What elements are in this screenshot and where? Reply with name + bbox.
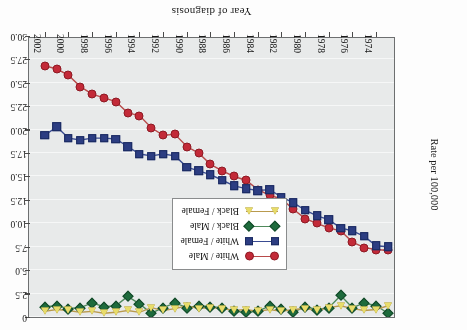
data-point	[289, 306, 297, 313]
data-point	[242, 306, 250, 313]
legend-marker	[269, 221, 281, 233]
y-tick-label: 27.5	[10, 55, 27, 65]
x-tick-mark	[210, 32, 211, 37]
data-point	[147, 304, 155, 311]
data-point	[360, 232, 368, 240]
data-point	[265, 185, 273, 193]
legend-marker	[270, 252, 279, 261]
data-point	[324, 224, 333, 233]
legend-swatch	[244, 236, 280, 248]
data-point	[207, 304, 215, 311]
data-point	[135, 111, 144, 120]
data-point	[123, 142, 131, 150]
legend-marker	[245, 208, 253, 215]
data-point	[171, 130, 180, 139]
data-point	[289, 199, 297, 207]
y-tick-label: 25.0	[10, 79, 27, 89]
legend-label: Black / Female	[181, 207, 239, 217]
data-point	[242, 184, 250, 192]
data-point	[360, 307, 368, 314]
x-tick-label: 1976	[340, 34, 350, 53]
legend-swatch	[244, 251, 280, 263]
y-tick-label: 10.0	[10, 219, 27, 229]
data-point	[100, 310, 108, 317]
data-point	[112, 135, 120, 143]
data-point	[230, 182, 238, 190]
data-point	[384, 302, 392, 309]
data-point	[64, 134, 72, 142]
data-point	[194, 149, 203, 158]
y-tick-label: 20.0	[10, 126, 27, 136]
data-point	[372, 306, 380, 313]
data-point	[183, 163, 191, 171]
data-point	[182, 142, 191, 151]
data-point	[230, 172, 239, 181]
data-point	[147, 152, 155, 160]
data-point	[76, 136, 84, 144]
x-tick-label: 1992	[150, 34, 160, 53]
x-tick-label: 1984	[245, 34, 255, 53]
legend-marker	[245, 252, 254, 261]
data-point	[242, 176, 251, 185]
data-point	[384, 243, 392, 251]
x-tick-label: 1974	[363, 34, 373, 53]
data-point	[218, 166, 227, 175]
x-tick-label: 1980	[292, 34, 302, 53]
x-tick-mark	[116, 32, 117, 37]
data-point	[278, 308, 286, 315]
x-tick-label: 1982	[269, 34, 279, 53]
data-point	[135, 150, 143, 158]
data-point	[372, 242, 380, 250]
data-point	[88, 134, 96, 142]
x-tick-mark	[234, 32, 235, 37]
data-point	[123, 108, 132, 117]
data-point	[76, 309, 84, 316]
data-point	[218, 176, 226, 184]
data-point	[52, 64, 61, 73]
x-tick-label: 2000	[56, 34, 66, 53]
data-point	[313, 212, 321, 220]
data-point	[124, 307, 132, 314]
x-tick-mark	[187, 32, 188, 37]
data-point	[159, 307, 167, 314]
data-point	[336, 224, 344, 232]
legend-swatch	[244, 221, 280, 233]
y-tick-label: 22.5	[10, 102, 27, 112]
legend-item: White / Female	[180, 234, 280, 249]
data-point	[348, 238, 357, 247]
x-tick-mark	[45, 32, 46, 37]
data-point	[171, 152, 179, 160]
data-point	[254, 308, 262, 315]
legend-label: White / Female	[180, 237, 239, 247]
x-tick-label: 1978	[316, 34, 326, 53]
legend-marker	[271, 208, 279, 215]
data-point	[266, 306, 274, 313]
legend-swatch	[244, 206, 280, 218]
legend-item: Black / Female	[180, 204, 280, 219]
x-tick-mark	[163, 32, 164, 37]
legend-label: Black / Male	[190, 222, 239, 232]
data-point	[194, 167, 202, 175]
data-point	[337, 302, 345, 309]
data-point	[88, 90, 97, 99]
data-point	[65, 307, 73, 314]
x-tick-mark	[376, 32, 377, 37]
x-tick-mark	[92, 32, 93, 37]
x-tick-mark	[352, 32, 353, 37]
x-tick-label: 1988	[198, 34, 208, 53]
data-point	[206, 170, 214, 178]
y-tick-label: 15.0	[10, 173, 27, 183]
data-point	[218, 305, 226, 312]
x-tick-label: 1996	[103, 34, 113, 53]
data-point	[313, 219, 322, 228]
data-point	[40, 61, 49, 70]
data-point	[112, 309, 120, 316]
x-axis-title: Year of diagnosis	[28, 6, 395, 18]
data-point	[206, 160, 215, 169]
y-tick-label: 30.0	[10, 32, 27, 42]
legend-item: Black / Male	[180, 219, 280, 234]
rotated-figure-container: White / MaleWhite / FemaleBlack / MaleBl…	[0, 0, 467, 330]
data-point	[360, 243, 369, 252]
data-point	[195, 305, 203, 312]
legend-item: White / Male	[180, 249, 280, 264]
